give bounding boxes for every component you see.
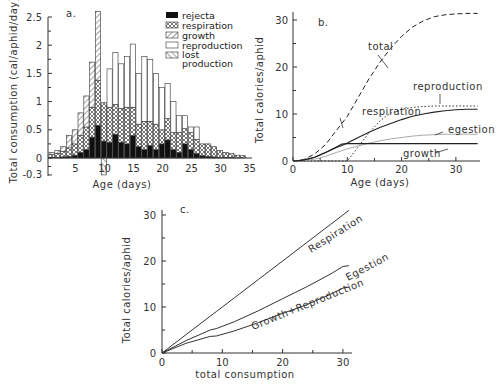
bar-segment	[130, 107, 135, 135]
panel-b: 00101020203030 b. Age (days) Total calor…	[254, 12, 495, 188]
bar-segment	[159, 88, 164, 130]
bar-segment	[171, 150, 176, 158]
figure: -0.300.511.522.55101520253035 a. Age (da…	[0, 0, 498, 385]
svg-text:0: 0	[290, 164, 296, 175]
bar-segment	[119, 108, 124, 142]
annot-reproduction: reproduction	[413, 81, 483, 92]
bar-segment	[148, 59, 153, 121]
legend-swatch-rejecta	[166, 12, 178, 18]
bar-segment	[177, 116, 182, 133]
svg-text:20: 20	[276, 357, 289, 368]
svg-text:0: 0	[282, 156, 288, 167]
svg-text:10: 10	[216, 357, 229, 368]
svg-text:25: 25	[185, 163, 198, 174]
bar-segment	[223, 152, 228, 157]
bar-segment	[84, 96, 89, 127]
svg-text:5: 5	[72, 163, 78, 174]
legend-swatch-lost-production	[166, 52, 178, 58]
bar-segment	[188, 133, 193, 150]
svg-text:1.5: 1.5	[26, 68, 42, 79]
stacked-bars	[49, 11, 246, 175]
svg-text:10: 10	[143, 302, 156, 313]
c-annot-egestion: Egestion	[344, 251, 391, 283]
bar-segment	[124, 144, 129, 158]
svg-text:30: 30	[337, 357, 350, 368]
svg-text:30: 30	[214, 163, 227, 174]
bar-segment	[136, 124, 141, 147]
bar-segment	[200, 144, 205, 156]
svg-text:10: 10	[341, 164, 354, 175]
bar-segment	[182, 144, 187, 158]
bar-segment	[49, 155, 54, 158]
c-x-axis-title: total consumption	[195, 369, 294, 380]
bar-segment	[171, 133, 176, 150]
bar-segment	[194, 153, 199, 158]
bar-segment	[78, 113, 83, 136]
bar-segment	[211, 147, 216, 157]
b-x-axis-title: Age (days)	[351, 177, 410, 188]
bar-segment	[136, 147, 141, 158]
bar-segment	[107, 69, 112, 107]
svg-text:10: 10	[275, 109, 288, 120]
annot-respiration: respiration	[362, 106, 421, 117]
b-y-axis-title: Total calories/aphid	[254, 37, 265, 145]
bar-segment	[113, 53, 118, 105]
bar-segment	[177, 133, 182, 153]
svg-text:2.5: 2.5	[26, 12, 42, 23]
svg-text:35: 35	[243, 163, 256, 174]
c-y-axis-title: Total calories/aphid	[121, 237, 132, 345]
bar-segment	[142, 56, 147, 121]
bar-segment	[194, 139, 199, 153]
a-x-axis-title: Age (days)	[93, 179, 152, 190]
legend-swatch-growth	[166, 32, 178, 38]
svg-text:0.5: 0.5	[26, 124, 42, 135]
bar-segment	[194, 127, 199, 139]
svg-text:0: 0	[150, 348, 156, 359]
bar-segment	[95, 80, 100, 125]
panel-c-label: c.	[180, 204, 190, 215]
panel-a-label: a.	[66, 8, 76, 19]
c-annot-growth-reproduction: Growth+Reproduction	[250, 277, 366, 332]
panel-b-label: b.	[318, 17, 329, 28]
annot-egestion: egestion	[448, 124, 495, 135]
bar-segment	[130, 135, 135, 158]
bar-segment	[153, 150, 158, 158]
line-growth	[293, 144, 478, 161]
bar-segment	[66, 135, 71, 147]
bar-segment	[124, 107, 129, 144]
bar-segment	[148, 121, 153, 145]
legend-production: production	[182, 58, 233, 69]
bar-segment	[78, 135, 83, 152]
bar-segment	[217, 151, 222, 158]
bar-segment	[95, 125, 100, 158]
bar-segment	[95, 11, 100, 80]
legend-swatch-reproduction	[166, 42, 178, 48]
bar-segment	[107, 142, 112, 158]
bar-segment	[113, 134, 118, 158]
svg-text:30: 30	[143, 210, 156, 221]
line-Egestion	[162, 266, 349, 353]
bar-segment	[119, 64, 124, 109]
bar-segment	[55, 153, 60, 157]
bar-segment	[101, 103, 106, 141]
svg-text:2: 2	[36, 40, 42, 51]
bar-segment	[206, 144, 211, 156]
svg-text:-0.3: -0.3	[22, 169, 42, 180]
legend-swatch-respiration	[166, 22, 178, 28]
bar-segment	[153, 124, 158, 149]
bar-segment	[182, 116, 187, 129]
bar-segment	[182, 129, 187, 144]
annot-total: total	[368, 41, 393, 52]
bar-segment	[101, 141, 106, 158]
bar-segment	[130, 44, 135, 107]
bar-segment	[84, 127, 89, 150]
bar-segment	[55, 151, 60, 154]
bar-segment	[72, 144, 77, 155]
svg-text:20: 20	[143, 256, 156, 267]
bar-segment	[66, 148, 71, 156]
bar-segment	[177, 152, 182, 158]
bar-segment	[84, 150, 89, 158]
bar-segment	[61, 147, 66, 152]
bar-segment	[229, 153, 234, 157]
bar-segment	[153, 73, 158, 124]
